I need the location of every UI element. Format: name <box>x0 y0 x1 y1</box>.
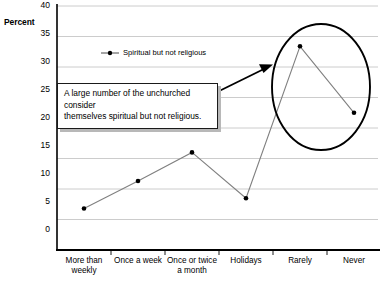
x-tick-more-than-weekly-line1: More than <box>57 256 111 266</box>
x-tick-once-a-week: Once a week <box>111 256 165 266</box>
data-point-once-a-week <box>136 179 141 184</box>
x-tick-more-than-weekly: More than weekly <box>57 256 111 275</box>
x-tick-holidays: Holidays <box>219 256 273 266</box>
data-point-holidays <box>244 196 249 201</box>
annotation-callout: A large number of the unchurched conside… <box>57 83 218 129</box>
chart-container: Percent 40 35 30 25 20 15 10 5 0 <box>0 0 382 286</box>
x-tick-holidays-line1: Holidays <box>219 256 273 266</box>
x-tick-rarely: Rarely <box>273 256 327 266</box>
callout-line-2: themselves spiritual but not religious. <box>64 111 211 123</box>
x-tick-once-a-week-line1: Once a week <box>111 256 165 266</box>
data-point-never <box>352 111 357 116</box>
callout-line-1: A large number of the unchurched conside… <box>64 88 211 111</box>
x-tick-more-than-weekly-line2: weekly <box>57 266 111 276</box>
data-point-rarely <box>298 44 303 49</box>
x-tick-once-or-twice-a-month: Once or twice a month <box>165 256 219 275</box>
x-tick-once-or-twice-a-month-line1: Once or twice <box>165 256 219 266</box>
x-tick-never-line1: Never <box>327 256 381 266</box>
plot-area <box>0 0 382 286</box>
legend-item-label: Spiritual but not religious <box>123 48 206 57</box>
highlight-ellipse-icon <box>272 24 370 150</box>
legend-marker-dot <box>108 51 112 55</box>
x-tick-rarely-line1: Rarely <box>273 256 327 266</box>
x-tick-never: Never <box>327 256 381 266</box>
data-point-once-or-twice-a-month <box>190 150 195 155</box>
data-point-more-than-weekly <box>82 206 87 211</box>
x-tick-once-or-twice-a-month-line2: a month <box>165 266 219 276</box>
